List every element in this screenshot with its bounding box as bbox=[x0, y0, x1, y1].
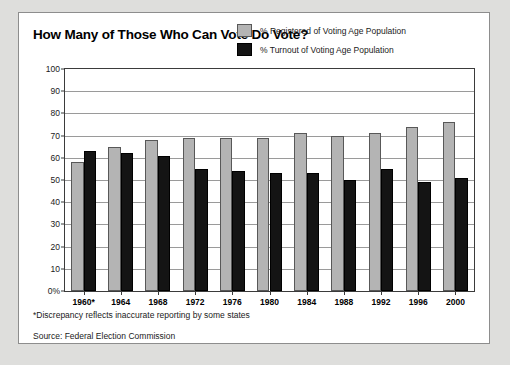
bar-turnout bbox=[381, 169, 393, 291]
x-axis-tick-label: 1964 bbox=[111, 297, 130, 307]
y-axis-tick-label: 80 bbox=[51, 108, 60, 118]
x-axis-tick-label: 1984 bbox=[297, 297, 316, 307]
chart-source: Source: Federal Election Commission bbox=[33, 331, 175, 341]
legend-item-turnout: % Turnout of Voting Age Population bbox=[237, 40, 423, 59]
bar-turnout bbox=[84, 151, 96, 291]
x-axis-tick bbox=[455, 291, 456, 295]
bar-turnout bbox=[418, 182, 430, 291]
y-axis-tick-label: 20 bbox=[51, 242, 60, 252]
bar-turnout bbox=[344, 180, 356, 291]
plot-area: 1009080706050403020100% 1960*19641968197… bbox=[64, 68, 475, 292]
x-axis-tick-label: 1976 bbox=[223, 297, 242, 307]
x-axis-tick-label: 1988 bbox=[334, 297, 353, 307]
x-axis-tick bbox=[381, 291, 382, 295]
x-axis-tick bbox=[121, 291, 122, 295]
bar-registered bbox=[71, 162, 83, 291]
x-axis-tick bbox=[195, 291, 196, 295]
legend-label-registered: % Registered of Voting Age Population bbox=[260, 26, 406, 36]
x-axis-tick-label: 2000 bbox=[446, 297, 465, 307]
bar-registered bbox=[443, 122, 455, 291]
x-axis-tick bbox=[270, 291, 271, 295]
chart-footnote: *Discrepancy reflects inaccurate reporti… bbox=[33, 310, 250, 320]
chart-legend: % Registered of Voting Age Population % … bbox=[237, 21, 423, 59]
bar-registered bbox=[257, 138, 269, 291]
y-axis-tick-label: 70 bbox=[51, 131, 60, 141]
bar-turnout bbox=[270, 173, 282, 291]
y-axis-tick-label: 40 bbox=[51, 197, 60, 207]
x-axis-tick-label: 1980 bbox=[260, 297, 279, 307]
y-axis-tick-label: 50 bbox=[51, 175, 60, 185]
y-axis-tick-label: 90 bbox=[51, 86, 60, 96]
bar-turnout bbox=[455, 178, 467, 291]
legend-swatch-turnout-icon bbox=[237, 43, 252, 56]
x-axis-tick bbox=[232, 291, 233, 295]
x-axis-tick-label: 1996 bbox=[409, 297, 428, 307]
x-axis-tick bbox=[158, 291, 159, 295]
chart-figure: How Many of Those Who Can Vote Do Vote? … bbox=[18, 12, 490, 344]
x-axis-tick bbox=[418, 291, 419, 295]
x-axis-tick bbox=[84, 291, 85, 295]
bar-turnout bbox=[195, 169, 207, 291]
legend-swatch-registered-icon bbox=[237, 24, 252, 37]
x-axis-tick bbox=[307, 291, 308, 295]
y-axis-tick-label: 10 bbox=[51, 264, 60, 274]
x-axis-tick-label: 1968 bbox=[148, 297, 167, 307]
bar-registered bbox=[183, 138, 195, 291]
bar-registered bbox=[294, 133, 306, 291]
bar-registered bbox=[108, 147, 120, 291]
bar-turnout bbox=[232, 171, 244, 291]
x-axis-tick bbox=[344, 291, 345, 295]
bar-registered bbox=[220, 138, 232, 291]
y-axis-tick-label: 30 bbox=[51, 219, 60, 229]
bar-turnout bbox=[158, 156, 170, 291]
bar-registered bbox=[369, 133, 381, 291]
bars-layer bbox=[65, 69, 474, 291]
x-axis-tick-label: 1972 bbox=[186, 297, 205, 307]
legend-label-turnout: % Turnout of Voting Age Population bbox=[260, 45, 394, 55]
bar-registered bbox=[406, 127, 418, 291]
y-axis-tick-label: 60 bbox=[51, 153, 60, 163]
legend-item-registered: % Registered of Voting Age Population bbox=[237, 21, 423, 40]
bar-turnout bbox=[307, 173, 319, 291]
y-axis-tick-label: 0% bbox=[48, 286, 60, 296]
bar-registered bbox=[145, 140, 157, 291]
x-axis-tick-label: 1960* bbox=[72, 297, 94, 307]
y-axis-tick-label: 100 bbox=[46, 64, 60, 74]
bar-registered bbox=[331, 136, 343, 291]
bar-turnout bbox=[121, 153, 133, 291]
x-axis-tick-label: 1992 bbox=[372, 297, 391, 307]
